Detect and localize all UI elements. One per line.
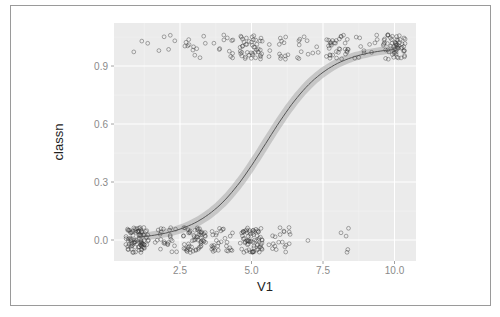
- y-tick-label: 0.9: [94, 61, 108, 72]
- y-tick-label: 0.6: [94, 119, 108, 130]
- scatter-chart: 2.55.07.510.0 0.00.30.60.9 V1 classn: [0, 0, 500, 317]
- x-tick-label: 5.0: [245, 265, 259, 276]
- x-tick-label: 2.5: [173, 265, 187, 276]
- y-axis-title: classn: [51, 124, 66, 161]
- y-tick-label: 0.0: [94, 235, 108, 246]
- y-tick-label: 0.3: [94, 177, 108, 188]
- x-tick-label: 7.5: [316, 265, 330, 276]
- x-axis-title: V1: [257, 279, 273, 294]
- x-tick-label: 10.0: [385, 265, 405, 276]
- y-axis: 0.00.30.60.9: [94, 61, 114, 246]
- x-axis: 2.55.07.510.0: [173, 261, 405, 276]
